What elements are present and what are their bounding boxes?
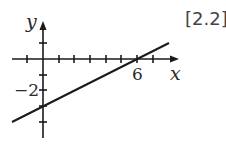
question-mark-label: [2.2] bbox=[185, 8, 226, 29]
y-tick-label-neg2: −2 bbox=[14, 80, 39, 100]
x-axis-label: x bbox=[170, 62, 181, 84]
y-axis-label: y bbox=[26, 10, 37, 32]
y-axis-arrow-icon bbox=[40, 21, 47, 30]
x-tick-label-6: 6 bbox=[132, 64, 143, 84]
